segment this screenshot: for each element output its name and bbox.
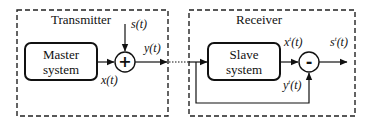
label-st-t: st(t) (330, 36, 348, 48)
slave-line1: Slave (208, 47, 280, 62)
minus-operator: - (301, 54, 317, 70)
label-s-t: s(t) (131, 18, 147, 30)
master-line2: system (25, 62, 97, 77)
label-x-t: x(t) (101, 74, 118, 86)
receiver-title: Receiver (236, 13, 282, 26)
xt-arg: (t) (291, 35, 302, 49)
label-xt-t: xt(t) (284, 36, 303, 48)
master-system-label: Master system (25, 47, 97, 77)
label-y-t: y(t) (144, 42, 161, 54)
slave-line2: system (208, 62, 280, 77)
label-yt-t: yt(t) (283, 79, 302, 91)
master-line1: Master (25, 47, 97, 62)
yt-arg: (t) (290, 78, 301, 92)
transmitter-title: Transmitter (51, 13, 111, 26)
st-arg: (t) (337, 35, 348, 49)
slave-system-label: Slave system (208, 47, 280, 77)
plus-operator: + (117, 54, 133, 70)
